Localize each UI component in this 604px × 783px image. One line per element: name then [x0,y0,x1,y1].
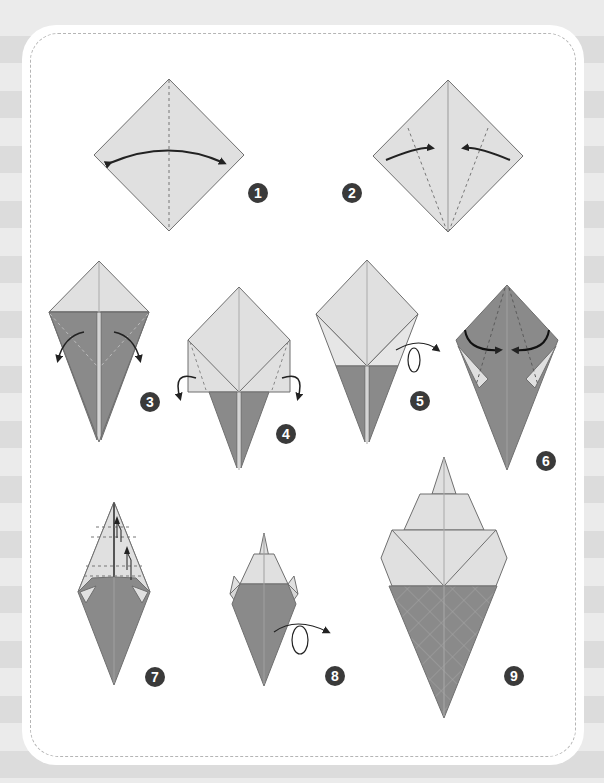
svg-text:5: 5 [416,393,424,409]
svg-text:9: 9 [510,668,518,684]
svg-text:6: 6 [542,453,550,469]
step-3: 3 [49,261,160,442]
step-1: 1 [94,79,268,231]
step-2: 2 [342,80,523,232]
svg-text:4: 4 [282,426,290,442]
step-8: 8 [230,533,345,686]
svg-text:3: 3 [146,394,154,410]
step-4: 4 [178,287,300,470]
step-6: 6 [456,285,558,471]
svg-text:7: 7 [151,669,159,685]
step-9: 9 [381,457,524,718]
origami-diagram: 1 2 3 4 [0,0,604,783]
step-7: 7 [78,502,165,687]
svg-text:8: 8 [331,668,339,684]
svg-text:1: 1 [254,185,262,201]
step-5: 5 [316,260,438,444]
svg-text:2: 2 [348,185,356,201]
